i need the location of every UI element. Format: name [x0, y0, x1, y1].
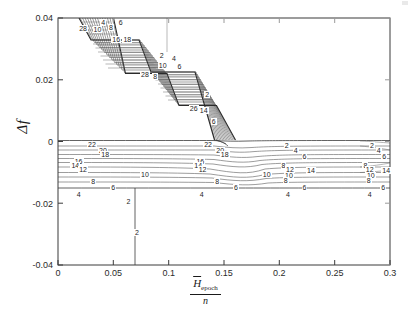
x-tick-label: 0.05 [105, 268, 123, 278]
contour-level-label: 16 [111, 36, 121, 43]
contour-level-label: 28 [78, 25, 88, 32]
contour-level-label: 8 [152, 73, 158, 80]
x-tick-label: 0.15 [215, 268, 233, 278]
page-corner-mark [402, 1, 408, 5]
contour-level-label: 6 [110, 184, 116, 191]
x-axis-numerator-subscript: epoch [201, 284, 218, 292]
x-tick-label: 0.1 [162, 268, 175, 278]
contour-lines [58, 18, 390, 265]
contour-level-label: 6 [233, 184, 239, 191]
contour-level-label: 18 [122, 36, 132, 43]
y-tick-labels: 0.04 0.02 0 -0.02 -0.04 [32, 13, 53, 270]
x-axis-numerator-symbol: H [193, 277, 201, 289]
contour-level-label: 14 [306, 167, 316, 174]
contour-level-label: 10 [140, 171, 150, 178]
contour-level-label: 4 [199, 191, 205, 198]
y-tick-label: 0.04 [35, 13, 53, 23]
contour-level-label: 10 [93, 26, 103, 33]
y-tick-label: 0.02 [35, 75, 53, 85]
contour-level-label: 8 [108, 24, 114, 31]
y-axis-title: Δf [14, 107, 31, 147]
contour-level-label: 2 [134, 229, 140, 236]
contour-level-label: 8 [90, 178, 96, 185]
contour-level-label: 12 [198, 166, 208, 173]
y-tick-label: -0.04 [32, 260, 53, 270]
contour-level-label: 12 [78, 166, 88, 173]
contour-level-label: 18 [220, 151, 230, 158]
contour-level-label: 6 [381, 153, 387, 160]
figure-root: 0 0.05 0.1 0.15 0.2 0.25 0.3 0.04 0.02 0… [0, 0, 411, 313]
contour-level-label: 22 [203, 141, 213, 148]
x-tick-label: 0.2 [273, 268, 286, 278]
x-axis-title-denominator: n [190, 295, 221, 307]
x-tick-label: 0.25 [326, 268, 344, 278]
contour-level-label: 18 [100, 151, 110, 158]
x-tick-labels: 0 0.05 0.1 0.15 0.2 0.25 0.3 [55, 268, 396, 278]
contour-level-label: 2 [204, 91, 210, 98]
contour-level-label: 28 [140, 71, 150, 78]
contour-level-label: 22 [87, 141, 97, 148]
contour-level-label: 4 [171, 55, 177, 62]
contour-level-label: 4 [100, 19, 106, 26]
x-tick-label: 0.3 [384, 268, 397, 278]
contour-level-label: 6 [380, 184, 386, 191]
contour-level-label: 26 [189, 105, 199, 112]
contour-level-label: 4 [293, 147, 299, 154]
contour-level-label: 4 [76, 191, 82, 198]
contour-level-label: 2 [159, 52, 165, 59]
x-axis-title-numerator: Hepoch [190, 278, 221, 295]
contour-level-label: 6 [177, 63, 183, 70]
y-tick-label: -0.02 [32, 199, 53, 209]
x-axis-title: Hepoch n [0, 278, 411, 308]
contour-level-label: 2 [369, 142, 375, 149]
contour-level-label: 10 [158, 62, 168, 69]
contour-level-label: 4 [285, 191, 291, 198]
contour-level-label: 14 [199, 107, 209, 114]
contour-level-label: 8 [283, 177, 289, 184]
contour-level-label: 6 [118, 19, 124, 26]
contour-plot: 0 0.05 0.1 0.15 0.2 0.25 0.3 0.04 0.02 0… [0, 0, 411, 313]
contour-level-label: 14 [381, 167, 391, 174]
y-tick-label: 0 [48, 137, 53, 147]
contour-level-label: 4 [367, 191, 373, 198]
contour-level-label: 6 [211, 118, 217, 125]
contour-level-label: 6 [302, 153, 308, 160]
contour-level-label: 8 [366, 177, 372, 184]
contour-level-label: 6 [302, 184, 308, 191]
contour-level-label: 10 [262, 171, 272, 178]
x-tick-label: 0 [55, 268, 60, 278]
contour-level-label: 2 [126, 198, 132, 205]
contour-level-label: 2 [284, 142, 290, 149]
contour-level-label: 8 [214, 178, 220, 185]
